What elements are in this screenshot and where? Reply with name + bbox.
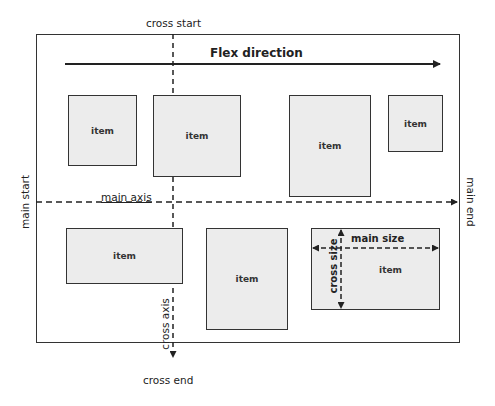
item-label: item <box>113 251 136 261</box>
main-end-label: main end <box>465 177 477 227</box>
main-start-label: main start <box>19 174 31 230</box>
item-label: item <box>186 131 209 141</box>
cross-size-label: cross size <box>328 242 339 294</box>
flex-item-4: item <box>388 95 443 152</box>
cross-end-label: cross end <box>143 374 193 386</box>
flex-item-6: item <box>206 228 288 330</box>
item-label: item <box>404 119 427 129</box>
cross-axis-label: cross axis <box>159 296 171 352</box>
flex-item-2: item <box>153 95 241 177</box>
item-label: item <box>379 265 402 275</box>
flex-item-1: item <box>68 95 137 166</box>
item-label: item <box>91 126 114 136</box>
item-label: item <box>236 274 259 284</box>
cross-start-label: cross start <box>146 17 201 29</box>
flex-direction-label: Flex direction <box>210 46 303 60</box>
flex-item-3: item <box>289 95 371 197</box>
main-axis-label: main axis <box>101 191 152 203</box>
item-label: item <box>319 141 342 151</box>
flex-item-5: item <box>66 228 183 284</box>
main-size-label: main size <box>351 233 404 244</box>
